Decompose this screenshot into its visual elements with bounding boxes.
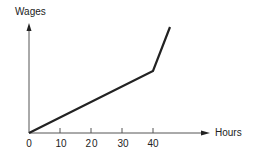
wage-line (29, 27, 170, 133)
y-axis-arrow-icon (27, 23, 32, 31)
x-ticks (60, 128, 153, 133)
x-axis-arrow-icon (201, 131, 210, 136)
x-tick-label: 30 (117, 139, 128, 149)
x-tick-label: 40 (147, 139, 158, 149)
x-tick-label: 0 (26, 139, 32, 149)
x-tick-label: 20 (85, 139, 98, 149)
x-axis-label: Hours (215, 128, 242, 138)
x-tick-label: 10 (55, 139, 66, 149)
y-axis-label: Wages (15, 7, 46, 17)
